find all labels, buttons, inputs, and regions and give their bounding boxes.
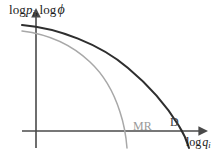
x-axis-label-log: log: [186, 135, 201, 149]
x-axis-label-q-subscript: i: [208, 140, 210, 150]
y-axis-label-p-symbol: p: [26, 2, 33, 17]
curves-group: [22, 25, 189, 148]
y-axis-label: logpi, log ϕ: [9, 3, 65, 18]
d-curve-label: D: [170, 116, 179, 128]
y-axis-label-comma: ,: [35, 2, 38, 17]
demand-curve: [22, 25, 189, 148]
mr-curve-label: MR: [133, 120, 152, 132]
phi-symbol: ϕ: [58, 2, 65, 17]
x-axis-label: log qi: [186, 136, 211, 150]
y-axis-label-log-phi: log: [39, 2, 56, 17]
economics-figure: logpi, log ϕ log qi MR D: [0, 0, 223, 162]
y-axis-label-log-p: log: [9, 2, 26, 17]
